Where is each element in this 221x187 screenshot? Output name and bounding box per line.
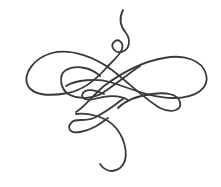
flourish-ornament-icon <box>0 0 221 187</box>
flourish-strokes <box>26 10 206 171</box>
top-tail <box>108 10 129 66</box>
flourish-canvas: Calligraphic swirl flourish <box>0 0 221 187</box>
